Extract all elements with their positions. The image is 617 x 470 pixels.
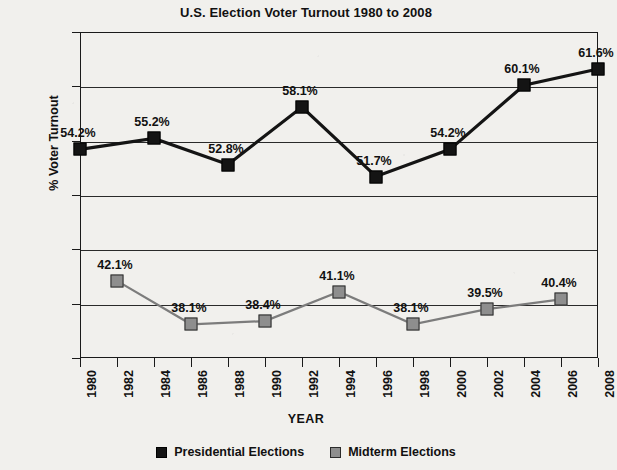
x-tick-mark <box>376 358 377 367</box>
x-tick-mark <box>191 358 192 367</box>
chart-title: U.S. Election Voter Turnout 1980 to 2008 <box>0 5 612 20</box>
x-tick-mark <box>487 358 488 367</box>
x-tick-mark <box>339 358 340 367</box>
data-point-label: 58.1% <box>282 84 317 98</box>
data-point-marker <box>74 143 87 156</box>
x-tick-mark <box>265 358 266 367</box>
data-point-label: 52.8% <box>208 142 243 156</box>
data-point-label: 61.6% <box>578 46 613 60</box>
data-point-marker <box>444 143 457 156</box>
x-tick-label: 1984 <box>159 370 173 398</box>
x-tick-mark <box>524 358 525 367</box>
legend-entry[interactable]: Midterm Elections <box>330 445 456 459</box>
x-tick-label: 2000 <box>455 370 469 398</box>
data-point-label: 40.4% <box>541 276 576 290</box>
data-point-label: 38.4% <box>245 298 280 312</box>
y-tick-mark <box>72 358 80 359</box>
data-point-label: 41.1% <box>319 269 354 283</box>
x-tick-mark <box>450 358 451 367</box>
legend-label: Presidential Elections <box>174 445 304 459</box>
data-point-marker <box>407 318 420 331</box>
legend-swatch-icon <box>156 447 167 458</box>
data-point-marker <box>222 158 235 171</box>
data-point-label: 38.1% <box>393 301 428 315</box>
data-point-label: 38.1% <box>171 301 206 315</box>
x-tick-mark <box>598 358 599 367</box>
data-point-label: 55.2% <box>134 115 169 129</box>
data-point-marker <box>481 303 494 316</box>
legend-swatch-icon <box>330 447 341 458</box>
x-tick-label: 1998 <box>418 370 432 398</box>
y-tick-mark <box>72 86 80 87</box>
x-tick-label: 1980 <box>85 370 99 398</box>
x-tick-mark <box>80 358 81 367</box>
chart-legend: Presidential ElectionsMidterm Elections <box>0 445 612 459</box>
data-point-label: 51.7% <box>356 154 391 168</box>
data-point-label: 42.1% <box>97 258 132 272</box>
data-point-label: 54.2% <box>430 126 465 140</box>
gridline <box>81 250 597 251</box>
x-tick-mark <box>561 358 562 367</box>
x-tick-label: 2008 <box>603 370 617 398</box>
y-tick-mark <box>72 141 80 142</box>
y-tick-mark <box>72 195 80 196</box>
data-point-marker <box>259 315 272 328</box>
gridline <box>81 305 597 306</box>
data-point-marker <box>111 274 124 287</box>
x-tick-mark <box>413 358 414 367</box>
x-tick-mark <box>117 358 118 367</box>
data-point-marker <box>370 170 383 183</box>
gridline <box>81 196 597 197</box>
x-tick-label: 1994 <box>344 370 358 398</box>
y-tick-mark <box>72 249 80 250</box>
data-point-marker <box>148 132 161 145</box>
data-point-marker <box>518 79 531 92</box>
y-tick-mark <box>72 32 80 33</box>
data-point-label: 60.1% <box>504 62 539 76</box>
data-point-label: 54.2% <box>60 126 95 140</box>
data-point-marker <box>333 285 346 298</box>
x-tick-label: 1990 <box>270 370 284 398</box>
data-point-marker <box>555 293 568 306</box>
x-tick-label: 2002 <box>492 370 506 398</box>
x-tick-mark <box>228 358 229 367</box>
x-tick-mark <box>302 358 303 367</box>
legend-entry[interactable]: Presidential Elections <box>156 445 304 459</box>
data-point-marker <box>185 318 198 331</box>
x-tick-mark <box>154 358 155 367</box>
data-point-label: 39.5% <box>467 286 502 300</box>
x-tick-label: 2006 <box>566 370 580 398</box>
y-axis-title: % Voter Turnout <box>47 83 61 203</box>
x-tick-label: 1988 <box>233 370 247 398</box>
x-tick-label: 1986 <box>196 370 210 398</box>
data-point-marker <box>296 100 309 113</box>
x-tick-label: 1992 <box>307 370 321 398</box>
data-point-marker <box>592 62 605 75</box>
x-tick-label: 2004 <box>529 370 543 398</box>
x-axis-title: YEAR <box>0 412 612 426</box>
legend-label: Midterm Elections <box>348 445 456 459</box>
x-tick-label: 1996 <box>381 370 395 398</box>
y-tick-mark <box>72 304 80 305</box>
x-tick-label: 1982 <box>122 370 136 398</box>
